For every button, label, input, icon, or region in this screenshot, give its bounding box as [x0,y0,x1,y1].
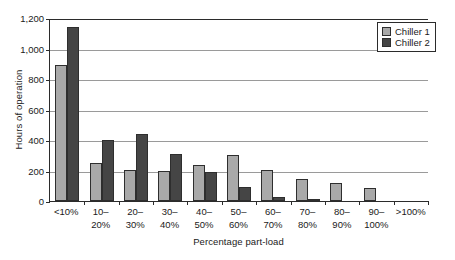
bar[interactable] [239,187,251,201]
x-axis-tick-mark [325,201,326,205]
y-axis-tick-label: 0 [10,197,44,207]
x-axis-tick-label: <10% [49,206,83,231]
bar[interactable] [227,155,239,201]
y-axis-tick-labels: 02004006008001,0001,200 [10,0,44,260]
bar-group [153,19,187,201]
bar[interactable] [90,163,102,201]
legend-item[interactable]: Chiller 1 [382,26,430,37]
x-axis-tick-mark [222,201,223,205]
x-axis-tick-mark [428,201,429,205]
legend-label: Chiller 2 [395,37,430,48]
legend-swatch-icon [382,27,391,36]
bar[interactable] [308,199,320,201]
x-axis-tick-label: 30– 40% [152,206,186,231]
bar[interactable] [102,140,114,201]
bar[interactable] [205,172,217,201]
bar[interactable] [330,183,342,201]
bar[interactable] [124,170,136,201]
bar-group [325,19,359,201]
bar-group [119,19,153,201]
y-axis-tick-mark [46,202,50,203]
x-axis-title: Percentage part-load [49,236,428,247]
x-axis-tick-mark [359,201,360,205]
x-axis-tick-mark [119,201,120,205]
x-axis-tick-mark [394,201,395,205]
bar-group [187,19,221,201]
x-axis-tick-label: 20– 30% [118,206,152,231]
x-axis-tick-label: 10– 20% [83,206,117,231]
x-axis-tick-label: >100% [394,206,428,231]
y-axis-tick-label: 1,000 [10,45,44,55]
y-axis-tick-label: 1,200 [10,14,44,24]
legend-label: Chiller 1 [395,26,430,37]
legend-swatch-icon [382,38,391,47]
bar[interactable] [296,179,308,201]
x-axis-tick-label: 70– 80% [290,206,324,231]
bar-group [256,19,290,201]
bar[interactable] [364,188,376,201]
bar-group [50,19,84,201]
bar[interactable] [55,65,67,201]
y-axis-tick-label: 200 [10,167,44,177]
x-axis-tick-label: 50– 60% [221,206,255,231]
x-axis-tick-mark [153,201,154,205]
bar-group [84,19,118,201]
bar-chart: Hours of operation 02004006008001,0001,2… [0,0,455,260]
x-axis-tick-mark [256,201,257,205]
chart-legend: Chiller 1Chiller 2 [377,22,436,52]
x-axis-tick-mark [187,201,188,205]
bar[interactable] [273,197,285,201]
y-axis-tick-label: 600 [10,106,44,116]
x-axis-tick-mark [291,201,292,205]
x-axis-tick-label: 60– 70% [256,206,290,231]
x-axis-tick-mark [84,201,85,205]
bar[interactable] [193,165,205,201]
bar[interactable] [170,154,182,201]
bar-groups [50,19,428,201]
x-axis-tick-label: 90– 100% [359,206,393,231]
legend-item[interactable]: Chiller 2 [382,37,430,48]
bar-group [222,19,256,201]
x-axis-tick-label: 40– 50% [187,206,221,231]
bar-group [291,19,325,201]
y-axis-tick-label: 400 [10,136,44,146]
bar[interactable] [136,134,148,201]
bar[interactable] [67,27,79,201]
bar[interactable] [261,170,273,201]
x-axis-tick-label: 80– 90% [325,206,359,231]
plot-area [49,19,428,202]
bar[interactable] [158,171,170,201]
x-axis-tick-labels: <10%10– 20%20– 30%30– 40%40– 50%50– 60%6… [49,206,428,231]
y-axis-tick-label: 800 [10,75,44,85]
